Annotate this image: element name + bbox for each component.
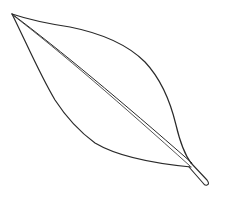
- leaf-upper-outline: [12, 14, 191, 163]
- leaf-drawing: leaf line drawing: [0, 0, 228, 198]
- leaf-midrib-inner: [14, 16, 190, 166]
- leaf-stalk: [189, 163, 209, 185]
- leaf-illustration: [0, 0, 228, 198]
